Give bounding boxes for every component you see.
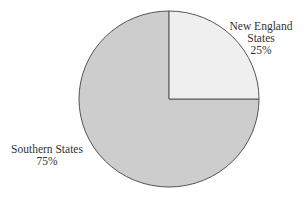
label-new-england: New England States 25%	[226, 20, 296, 56]
label-so-pct: 75%	[4, 155, 90, 167]
label-ne-line1: New England	[226, 20, 296, 32]
label-southern: Southern States 75%	[4, 143, 90, 167]
label-so-line1: Southern States	[4, 143, 90, 155]
label-ne-line2: States	[226, 32, 296, 44]
label-ne-pct: 25%	[226, 44, 296, 56]
